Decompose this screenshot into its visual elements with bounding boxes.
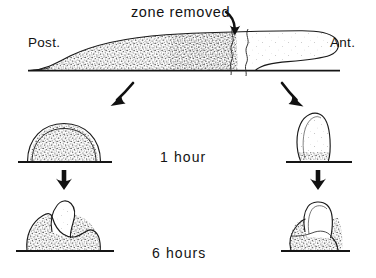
panel-anterior-1h [286, 110, 352, 162]
posterior-label: Post. [28, 36, 60, 50]
branch-right-arrow [282, 83, 304, 107]
time-left-arrow [56, 170, 72, 190]
time-label-6-hours: 6 hours [152, 246, 206, 260]
anterior-label: Ant. [330, 36, 355, 50]
branch-left-arrow [111, 83, 134, 106]
zone-removed-label: zone removed [131, 5, 230, 20]
anterior-light-stipple [244, 31, 338, 66]
panel-posterior-1h [18, 118, 112, 166]
panel-intact-slug [25, 27, 340, 76]
panel-posterior-6h [16, 201, 114, 254]
time-right-arrow [310, 170, 326, 190]
panel-anterior-6h [281, 202, 350, 254]
time-label-1-hour: 1 hour [160, 150, 206, 164]
